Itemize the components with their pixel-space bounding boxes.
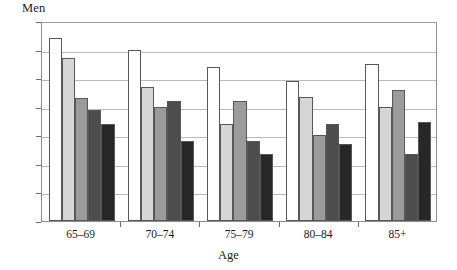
y-tick-mark [36,51,41,52]
x-tick-label: 65–69 [66,228,95,240]
bar-group [200,23,279,221]
x-axis-title: Age [0,248,457,263]
bar [365,64,378,221]
bar [167,101,180,221]
x-tick-label: 85+ [388,228,406,240]
y-tick-mark [36,165,41,166]
bar [339,144,352,221]
bar-group [280,23,359,221]
bar [181,141,194,221]
x-tick-label: 70–74 [145,228,174,240]
bar-group [42,23,121,221]
y-tick-mark [36,22,41,23]
x-tick-mark [358,222,359,227]
bar [154,107,167,221]
y-tick-mark [36,136,41,137]
y-tick-mark [36,108,41,109]
x-tick-label: 80–84 [304,228,333,240]
bar [49,38,62,221]
bar [75,98,88,221]
bar [141,87,154,221]
bar [326,124,339,221]
bar [299,97,312,221]
x-tick-mark [120,222,121,227]
bar [220,124,233,221]
y-tick-mark [36,79,41,80]
x-tick-mark [279,222,280,227]
bar [62,58,75,221]
bar [379,107,392,221]
bar [392,90,405,221]
bar [286,81,299,221]
bar [128,50,141,221]
bar [233,101,246,221]
bar [101,124,114,221]
bar-chart: Men 01020304050607065–6970–7475–7980–848… [0,0,457,270]
bar [418,122,431,221]
y-tick-mark [36,193,41,194]
y-tick-mark [36,222,41,223]
bar-group [359,23,438,221]
bar [260,154,273,221]
bar [88,110,101,221]
y-axis-title: Men [22,1,46,16]
x-tick-mark [199,222,200,227]
plot-area [41,22,437,222]
bar-group [121,23,200,221]
bar [247,141,260,221]
x-tick-label: 75–79 [225,228,254,240]
bar [313,135,326,221]
bars-layer [42,23,436,221]
bar [207,67,220,221]
bar [405,154,418,221]
